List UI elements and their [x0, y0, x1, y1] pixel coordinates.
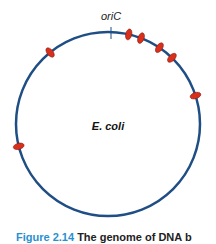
- figure-caption: Figure 2.14 The genome of DNA b: [16, 230, 192, 244]
- gene-marker: [154, 41, 165, 53]
- origin-label: oriC: [101, 10, 121, 22]
- gene-marker: [189, 91, 201, 100]
- gene-marker: [13, 142, 25, 150]
- caption-text: The genome of DNA b: [77, 231, 191, 243]
- gene-marker: [136, 32, 146, 44]
- figure-number: Figure 2.14: [16, 231, 74, 243]
- gene-marker: [125, 28, 133, 40]
- organism-label: E. coli: [92, 120, 125, 132]
- marker-group: [13, 28, 202, 150]
